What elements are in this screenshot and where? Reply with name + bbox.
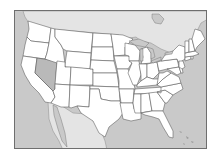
us-map	[14, 10, 207, 149]
state-north-dakota	[92, 33, 113, 47]
state-new-mexico	[69, 85, 90, 108]
state-vermont	[185, 41, 189, 53]
state-arkansas	[119, 89, 134, 103]
state-wyoming	[65, 51, 91, 69]
map-svg	[15, 11, 207, 149]
state-mississippi	[133, 94, 141, 113]
state-kansas	[93, 73, 119, 87]
state-colorado	[70, 67, 93, 85]
state-nebraska	[90, 60, 117, 73]
state-south-dakota	[91, 47, 114, 61]
lake-michigan	[140, 49, 143, 61]
